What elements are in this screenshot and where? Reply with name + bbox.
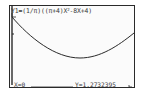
busy-indicator-icon	[129, 85, 132, 87]
function-curve	[12, 17, 134, 58]
trace-y-value: Y=1.2732395	[75, 81, 116, 88]
trace-x-value: X=0	[14, 81, 25, 88]
